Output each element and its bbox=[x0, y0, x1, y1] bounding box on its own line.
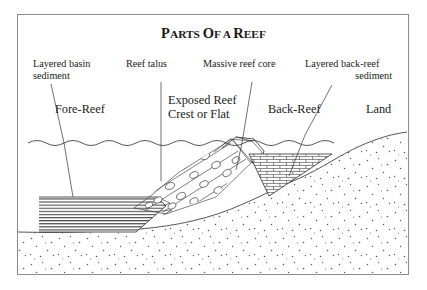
zone-labels: Fore-Reef Exposed Reef Crest or Flat Bac… bbox=[55, 93, 391, 121]
page-title: PARTS OF A REEF bbox=[161, 25, 266, 41]
zone-label-fore-reef: Fore-Reef bbox=[55, 102, 106, 116]
figure-page: PARTS OF A REEF Layered basin sediment R… bbox=[0, 0, 427, 290]
label-layered-back-reef-sediment-line1: Layered back-reef bbox=[305, 58, 380, 69]
label-massive-reef-core: Massive reef core bbox=[203, 58, 276, 69]
label-layered-basin-sediment-line2: sediment bbox=[33, 70, 70, 81]
zone-label-exposed-reef-crest-line1: Exposed Reef bbox=[168, 93, 238, 107]
zone-label-land: Land bbox=[366, 102, 391, 116]
figure-title-group: PARTS OF A REEF bbox=[161, 25, 266, 41]
title-part-eef: EEF bbox=[244, 28, 266, 40]
title-part-o: O bbox=[203, 25, 214, 41]
annotation-labels: Layered basin sediment Reef talus Massiv… bbox=[33, 58, 392, 81]
zone-label-back-reef: Back-Reef bbox=[268, 102, 321, 116]
water-surface-line bbox=[28, 141, 334, 146]
reef-cross-section-diagram: PARTS OF A REEF Layered basin sediment R… bbox=[0, 0, 427, 290]
label-reef-talus: Reef talus bbox=[126, 58, 167, 69]
zone-label-exposed-reef-crest-line2: Crest or Flat bbox=[168, 107, 230, 121]
label-layered-back-reef-sediment-line2: sediment bbox=[355, 70, 392, 81]
title-part-arts: ARTS bbox=[170, 28, 200, 40]
title-part-r: R bbox=[233, 25, 244, 41]
label-layered-basin-sediment-line1: Layered basin bbox=[33, 58, 90, 69]
title-part-p: P bbox=[161, 25, 170, 41]
